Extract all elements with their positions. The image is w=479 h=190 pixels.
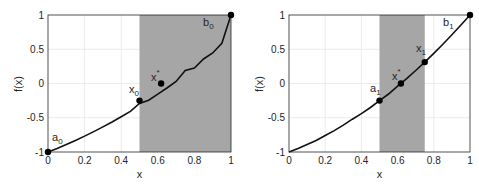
svg-text:1: 1: [228, 155, 234, 166]
right-y-axis-label: f(x): [253, 76, 265, 92]
right-point-x1: [422, 59, 428, 65]
right-y-ticks: 1 0.5 0 -0.5 -1: [268, 10, 286, 158]
right-x-axis-label: x: [377, 168, 383, 180]
right-point-b1: [467, 12, 473, 18]
svg-text:1: 1: [38, 10, 44, 21]
svg-text:-1: -1: [276, 147, 285, 158]
svg-text:0: 0: [279, 78, 285, 89]
svg-text:0: 0: [286, 155, 292, 166]
svg-text:0.2: 0.2: [318, 155, 332, 166]
svg-text:-0.5: -0.5: [27, 112, 45, 123]
right-panel: a1 x* x1 b1 1 0.5 0 -0.5 -1 0 0.2 0.4 0.…: [253, 10, 473, 181]
svg-text:0.2: 0.2: [78, 155, 92, 166]
left-panel: a0 x0 x* b0 1 0.5 0 -0.5 -1 0 0.2 0.4 0.…: [12, 10, 234, 181]
left-x-ticks: 0 0.2 0.4 0.6 0.8 1: [45, 155, 234, 166]
svg-text:0.4: 0.4: [354, 155, 368, 166]
right-x-ticks: 0 0.2 0.4 0.6 0.8 1: [286, 155, 473, 166]
left-point-xstar: [158, 80, 164, 86]
svg-text:0: 0: [45, 155, 51, 166]
svg-text:0.8: 0.8: [427, 155, 441, 166]
svg-text:1: 1: [279, 10, 285, 21]
left-y-axis-label: f(x): [12, 76, 24, 92]
left-point-b0: [228, 12, 234, 18]
svg-text:1: 1: [467, 155, 473, 166]
svg-text:-0.5: -0.5: [268, 112, 286, 123]
chart-svg: a0 x0 x* b0 1 0.5 0 -0.5 -1 0 0.2 0.4 0.…: [0, 0, 479, 190]
svg-text:0: 0: [38, 78, 44, 89]
svg-text:0.8: 0.8: [187, 155, 201, 166]
left-shaded-interval: [140, 15, 232, 152]
left-x-axis-label: x: [137, 168, 143, 180]
svg-text:0.4: 0.4: [114, 155, 128, 166]
right-point-xstar: [398, 80, 404, 86]
svg-text:-1: -1: [35, 147, 44, 158]
right-point-a1: [376, 97, 382, 103]
svg-text:0.5: 0.5: [30, 44, 44, 55]
left-point-x0: [136, 97, 142, 103]
svg-text:0.6: 0.6: [151, 155, 165, 166]
svg-text:0.6: 0.6: [391, 155, 405, 166]
svg-text:0.5: 0.5: [271, 44, 285, 55]
figure: a0 x0 x* b0 1 0.5 0 -0.5 -1 0 0.2 0.4 0.…: [0, 0, 479, 190]
left-y-ticks: 1 0.5 0 -0.5 -1: [27, 10, 45, 158]
